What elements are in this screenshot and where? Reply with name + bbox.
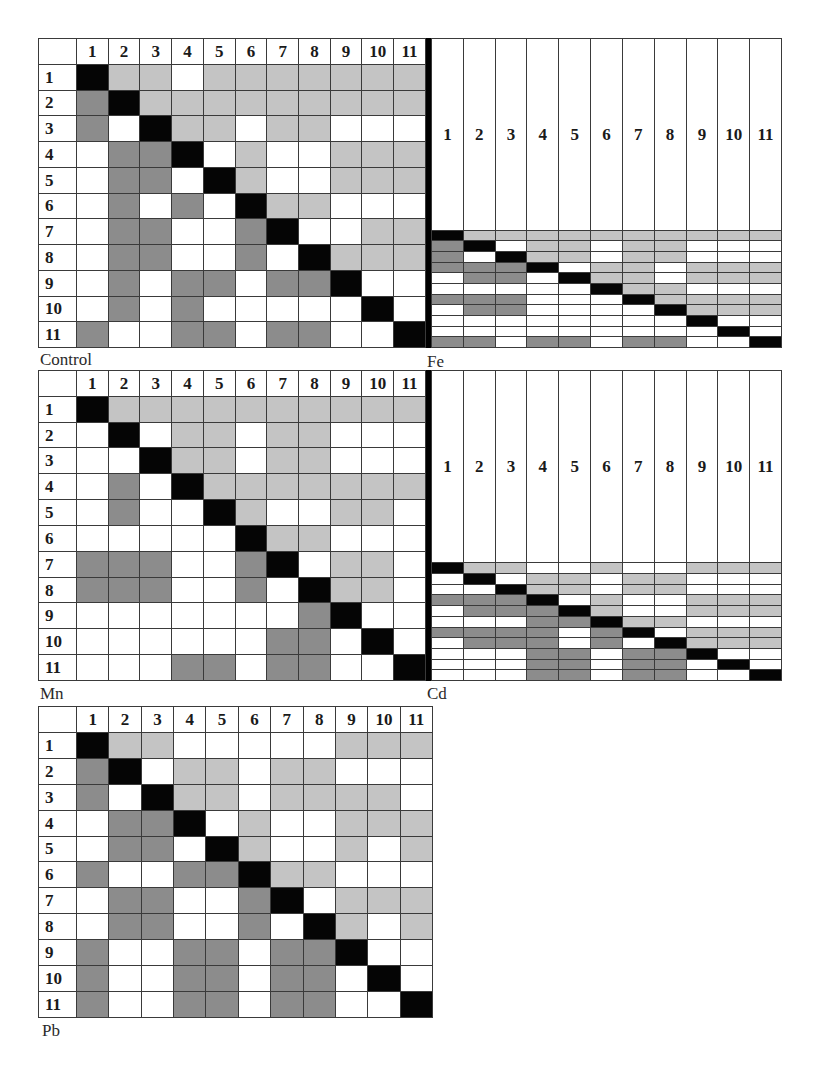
matrix-cell bbox=[559, 305, 591, 316]
matrix-cell bbox=[400, 810, 432, 836]
matrix-cell bbox=[527, 670, 559, 681]
matrix-cell bbox=[718, 315, 750, 326]
matrix-cell bbox=[400, 914, 432, 940]
matrix-cell bbox=[330, 577, 362, 603]
matrix-row bbox=[432, 283, 782, 294]
matrix-cell bbox=[271, 888, 303, 914]
matrix-cell bbox=[203, 193, 235, 219]
matrix-cell bbox=[394, 219, 426, 245]
matrix-cell bbox=[495, 574, 527, 585]
column-header: 11 bbox=[394, 39, 426, 65]
matrix-cell bbox=[303, 888, 335, 914]
matrix-cell bbox=[394, 245, 426, 271]
matrix-cell bbox=[463, 252, 495, 263]
matrix-row: 8 bbox=[39, 577, 426, 603]
matrix-cell bbox=[109, 862, 141, 888]
row-header: 3 bbox=[39, 448, 77, 474]
matrix-cell bbox=[140, 116, 172, 142]
matrix-cell bbox=[591, 305, 623, 316]
matrix-cell bbox=[394, 422, 426, 448]
matrix-cell bbox=[394, 577, 426, 603]
row-header: 8 bbox=[39, 245, 77, 271]
matrix-row bbox=[432, 638, 782, 649]
matrix-cell bbox=[718, 574, 750, 585]
matrix-cell bbox=[77, 422, 109, 448]
matrix-cell bbox=[591, 262, 623, 273]
matrix-cell bbox=[432, 606, 464, 617]
row-header: 2 bbox=[39, 758, 77, 784]
matrix-cell bbox=[206, 862, 238, 888]
matrix-cell bbox=[718, 627, 750, 638]
matrix-cell bbox=[591, 670, 623, 681]
matrix-cell bbox=[362, 167, 394, 193]
matrix-cell bbox=[432, 563, 464, 574]
matrix-cell bbox=[77, 500, 109, 526]
matrix-cell bbox=[271, 991, 303, 1017]
row-header: 10 bbox=[39, 296, 77, 322]
matrix-row: 5 bbox=[39, 836, 433, 862]
matrix-cell bbox=[495, 616, 527, 627]
matrix-cell bbox=[750, 648, 782, 659]
matrix-cell bbox=[335, 836, 367, 862]
matrix-row: 8 bbox=[39, 245, 426, 271]
matrix-cell bbox=[495, 337, 527, 348]
matrix-cell bbox=[686, 670, 718, 681]
matrix-cell bbox=[591, 606, 623, 617]
matrix-cell bbox=[172, 396, 204, 422]
matrix-cell bbox=[299, 396, 331, 422]
matrix-cell bbox=[559, 606, 591, 617]
matrix-cell bbox=[400, 991, 432, 1017]
matrix-row bbox=[432, 659, 782, 670]
matrix-cell bbox=[206, 888, 238, 914]
matrix-row bbox=[432, 584, 782, 595]
matrix-cell bbox=[172, 448, 204, 474]
matrix-cell bbox=[527, 584, 559, 595]
matrix-row: 5 bbox=[39, 167, 426, 193]
row-header: 7 bbox=[39, 551, 77, 577]
matrix-row bbox=[432, 294, 782, 305]
matrix-cell bbox=[140, 219, 172, 245]
matrix-cell bbox=[559, 315, 591, 326]
matrix-cell bbox=[267, 474, 299, 500]
matrix-cell bbox=[463, 273, 495, 284]
column-header: 6 bbox=[591, 39, 623, 231]
matrix-cell bbox=[335, 966, 367, 992]
matrix-cell bbox=[622, 252, 654, 263]
matrix-row: 1 bbox=[39, 396, 426, 422]
matrix-cell bbox=[591, 595, 623, 606]
matrix-cell bbox=[622, 294, 654, 305]
matrix-control: 12345678910111234567891011 bbox=[38, 38, 426, 348]
matrix-cell bbox=[267, 551, 299, 577]
matrix-cell bbox=[203, 500, 235, 526]
matrix-cell bbox=[77, 193, 109, 219]
matrix-cell bbox=[622, 262, 654, 273]
matrix-cell bbox=[330, 142, 362, 168]
matrix-cell bbox=[77, 758, 109, 784]
column-header: 1 bbox=[77, 371, 109, 397]
matrix-cell bbox=[394, 193, 426, 219]
matrix-cell bbox=[235, 525, 267, 551]
matrix-cell bbox=[172, 525, 204, 551]
matrix-cell bbox=[267, 167, 299, 193]
matrix-cell bbox=[432, 273, 464, 284]
column-header: 2 bbox=[463, 39, 495, 231]
matrix-cell bbox=[77, 474, 109, 500]
matrix-cell bbox=[432, 648, 464, 659]
matrix-cell bbox=[432, 337, 464, 348]
matrix-cell bbox=[299, 603, 331, 629]
matrix-cell bbox=[591, 574, 623, 585]
matrix-row: 7 bbox=[39, 551, 426, 577]
matrix-cell bbox=[495, 294, 527, 305]
matrix-cell bbox=[172, 116, 204, 142]
matrix-cell bbox=[654, 659, 686, 670]
matrix-cell bbox=[271, 784, 303, 810]
matrix-cell bbox=[77, 245, 109, 271]
matrix-cell bbox=[140, 270, 172, 296]
row-header: 5 bbox=[39, 167, 77, 193]
matrix-cell bbox=[238, 758, 270, 784]
matrix-cell bbox=[238, 732, 270, 758]
matrix-cell bbox=[495, 648, 527, 659]
matrix-row bbox=[432, 230, 782, 241]
matrix-cell bbox=[394, 90, 426, 116]
matrix-cell bbox=[203, 474, 235, 500]
